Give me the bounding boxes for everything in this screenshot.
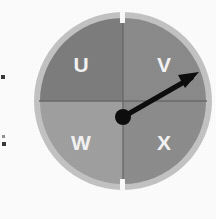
gap-marker-top: [120, 11, 125, 23]
sector-label-x: X: [157, 131, 171, 154]
figure-canvas: U V W X: [0, 0, 216, 219]
sector-label-u: U: [73, 53, 88, 76]
sector-label-w: W: [71, 131, 91, 154]
spinner-wheel[interactable]: U V W X: [33, 11, 213, 191]
sector-label-v: V: [157, 53, 171, 76]
pointer-pivot: [115, 109, 131, 125]
margin-mark-upper: [1, 75, 5, 79]
margin-mark-lower-a: [2, 135, 5, 138]
margin-mark-lower-b: [2, 142, 6, 146]
gap-marker-bottom: [120, 179, 125, 191]
